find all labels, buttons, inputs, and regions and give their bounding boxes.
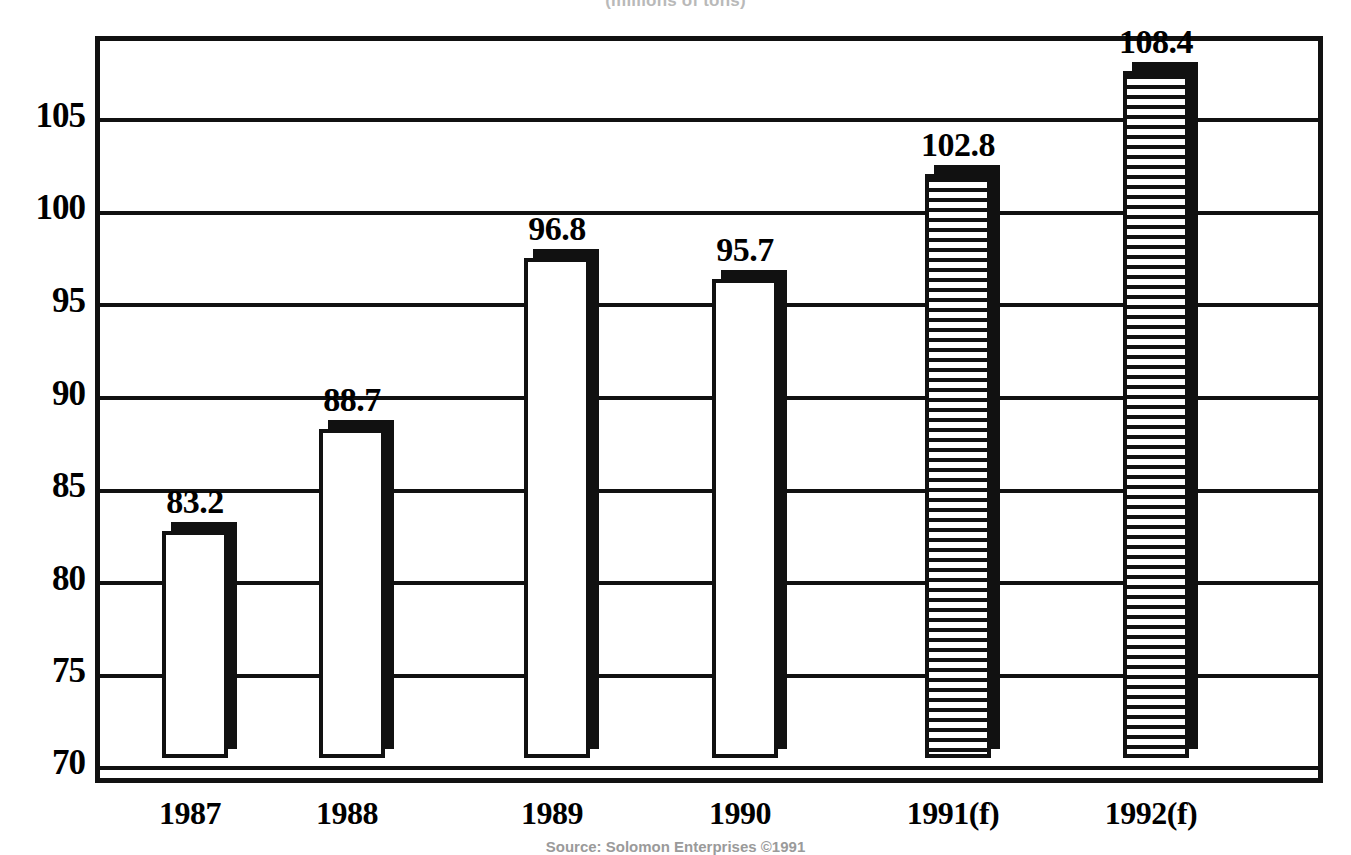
x-axis-tick-label: 1989 (521, 795, 583, 832)
x-axis-tick-label: 1987 (159, 795, 221, 832)
bar[interactable]: 102.8 (925, 174, 991, 758)
bar-body (524, 258, 590, 758)
bar-value-label: 96.8 (528, 210, 586, 248)
x-axis-tick-label: 1990 (709, 795, 771, 832)
bar[interactable]: 108.4 (1123, 71, 1189, 758)
bar-value-label: 88.7 (323, 381, 381, 419)
y-axis-tick-label: 100 (5, 190, 85, 225)
chart-plot-area: 83.288.796.895.7102.8108.4 (95, 36, 1323, 783)
bar-body (712, 279, 778, 758)
bar[interactable]: 88.7 (319, 429, 385, 758)
chart-subtitle: (millions of tons) (0, 0, 1351, 11)
bar-value-label: 102.8 (921, 126, 995, 164)
y-axis-tick-label: 90 (5, 376, 85, 411)
y-axis-tick-label: 75 (5, 653, 85, 688)
bar-body (1123, 71, 1189, 758)
y-axis-tick-label: 95 (5, 283, 85, 318)
bar-value-label: 95.7 (716, 231, 774, 269)
bar-body (162, 531, 228, 758)
bar-body (925, 174, 991, 758)
bar-body (319, 429, 385, 758)
x-axis-tick-label: 1991(f) (907, 795, 999, 832)
y-axis-tick-label: 105 (5, 98, 85, 133)
bar[interactable]: 83.2 (162, 531, 228, 758)
y-axis-tick-label: 85 (5, 468, 85, 503)
gridline (100, 766, 1318, 770)
bar[interactable]: 96.8 (524, 258, 590, 758)
x-axis-tick-label: 1988 (316, 795, 378, 832)
y-axis-tick-label: 70 (5, 745, 85, 780)
source-note: Source: Solomon Enterprises ©1991 (0, 838, 1351, 855)
bar-value-label: 83.2 (166, 483, 224, 521)
bar-value-label: 108.4 (1119, 23, 1193, 61)
x-axis-tick-label: 1992(f) (1105, 795, 1197, 832)
y-axis-tick-label: 80 (5, 561, 85, 596)
bar[interactable]: 95.7 (712, 279, 778, 758)
